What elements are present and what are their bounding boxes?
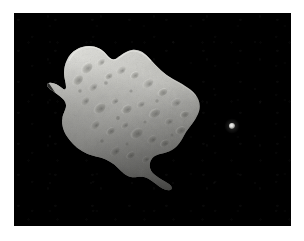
- asteroid-limb-shadow: [14, 13, 291, 226]
- moon: [229, 123, 235, 129]
- asteroid-svg: [14, 13, 291, 226]
- asteroid-photograph: [14, 13, 291, 226]
- screenshot-canvas: Asteroid 243 Ida with its small moon Dac…: [0, 0, 304, 241]
- asteroid-body: [14, 13, 291, 226]
- asteroid-silhouette: [14, 13, 291, 226]
